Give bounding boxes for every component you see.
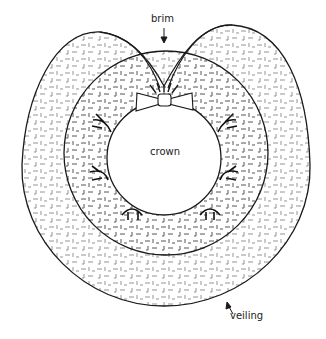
- brim-arrow-icon: [161, 28, 167, 43]
- crown-circle: [107, 101, 221, 215]
- hat-diagram: [0, 0, 326, 339]
- brim-label: brim: [151, 13, 174, 24]
- veiling-label: veiling: [230, 310, 263, 321]
- crown-label: crown: [150, 146, 180, 157]
